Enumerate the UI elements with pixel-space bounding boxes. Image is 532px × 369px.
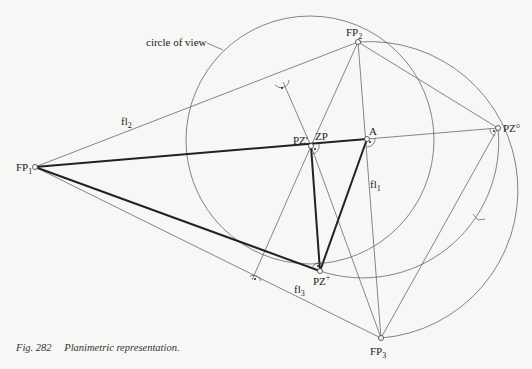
line-pzo-fp3 [381, 128, 498, 338]
label-zp: ZP [315, 130, 328, 142]
line-fl3 [35, 167, 381, 338]
label-pzo: PZ° [503, 122, 520, 134]
caption-number: Fig. 282 [16, 342, 52, 353]
caption-text: Planimetric representation. [64, 342, 179, 353]
label-fp2: FP2 [346, 26, 362, 41]
annotation-circle-of-view: circle of view [146, 36, 207, 48]
annotation-leader [207, 43, 223, 50]
line-a-pzo [367, 128, 498, 139]
line-fp2-pzo [358, 42, 498, 128]
label-fl2: fl2 [121, 115, 132, 130]
point-zp [309, 144, 314, 149]
line-zp-fp3 [311, 146, 381, 338]
figure-caption: Fig. 282 Planimetric representation. [16, 342, 180, 353]
thick-fp1-pzplus [35, 167, 320, 271]
label-fp3: FP3 [370, 345, 386, 360]
label-a: A [369, 125, 377, 137]
point-pzplus [318, 269, 323, 274]
thales-circle-arc [358, 42, 518, 338]
label-pzplus: PZ+ [313, 273, 331, 287]
thick-a-pzplus [320, 139, 367, 271]
circle-of-view [186, 16, 434, 264]
label-fl1: fl1 [370, 178, 381, 193]
right-angle-marker-fl2 [275, 80, 289, 89]
point-fp1 [33, 165, 38, 170]
rotation-arc [320, 128, 499, 278]
altitude-to-fl3 [252, 146, 311, 280]
point-fp3 [379, 336, 384, 341]
point-pzo [496, 126, 501, 131]
thick-zp-pzplus [311, 146, 320, 271]
diagram-canvas: circle of view FP1 FP2 FP3 PZ' ZP A PZ° … [0, 0, 532, 369]
planimetric-diagram: circle of view FP1 FP2 FP3 PZ' ZP A PZ° … [0, 0, 532, 369]
point-a [365, 137, 370, 142]
label-pz-prime: PZ' [293, 134, 308, 146]
label-fp1: FP1 [16, 161, 32, 176]
